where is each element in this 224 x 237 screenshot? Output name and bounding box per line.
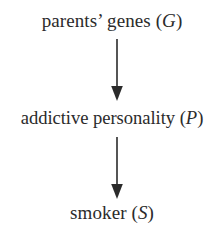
- node-label-suffix: ): [197, 107, 203, 128]
- node-label-prefix: smoker (: [70, 202, 138, 223]
- node-addictive-personality: addictive personality (P): [0, 107, 224, 129]
- node-label-prefix: parents’ genes (: [42, 10, 162, 31]
- arrow-personality-to-smoker: [106, 137, 128, 200]
- variable-symbol-g: G: [162, 10, 176, 31]
- node-label-prefix: addictive personality (: [21, 107, 186, 128]
- causal-chain-diagram: parents’ genes (G) addictive personality…: [0, 0, 224, 237]
- node-smoker: smoker (S): [0, 202, 224, 224]
- node-label-suffix: ): [176, 10, 182, 31]
- node-label-suffix: ): [147, 202, 153, 223]
- node-parents-genes: parents’ genes (G): [0, 10, 224, 32]
- variable-symbol-p: P: [186, 107, 197, 128]
- arrow-genes-to-personality: [106, 39, 128, 102]
